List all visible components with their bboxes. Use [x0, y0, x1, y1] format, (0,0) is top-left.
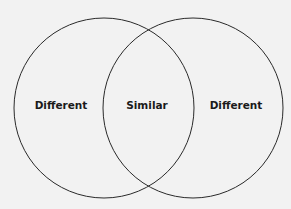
intersection-label: Similar	[126, 99, 168, 111]
right-circle-label: Different	[210, 99, 263, 111]
left-circle-label: Different	[35, 99, 88, 111]
